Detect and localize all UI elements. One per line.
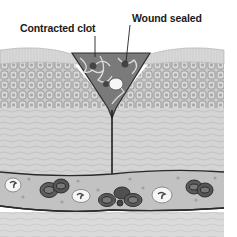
label-wound-sealed: Wound sealed [132,12,202,24]
skin-cross-section [0,0,237,237]
white-blood-cell-in-clot [109,78,123,90]
subcutaneous-layer [0,212,224,237]
label-contracted-clot: Contracted clot [20,22,96,34]
wound-healing-diagram: Contracted clot Wound sealed [0,0,237,237]
